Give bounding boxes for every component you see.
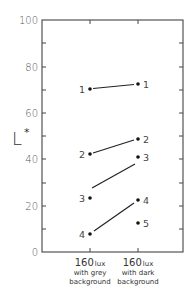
y-axis-ticks	[42, 20, 183, 252]
x-grey-line2: with grey	[74, 269, 107, 277]
y-tick-0: 0	[32, 247, 38, 258]
point-4-grey	[88, 232, 92, 236]
series-points	[88, 82, 140, 236]
x-grey-line3: background	[69, 278, 110, 286]
label-5-dark: 5	[143, 218, 149, 229]
y-tick-20: 20	[25, 201, 38, 212]
y-tick-60: 60	[25, 108, 38, 119]
point-1-dark	[136, 82, 140, 86]
point-1-grey	[88, 87, 92, 91]
point-3-dark	[136, 155, 140, 159]
y-axis-title-star: *	[24, 126, 30, 139]
x-category-grey: 160lux with grey background	[69, 257, 110, 286]
chart: 0 20 40 60 80 100 L * 1 1 2 2 3 3 4 4 5	[0, 0, 196, 298]
point-2-dark	[136, 137, 140, 141]
label-1-dark: 1	[143, 79, 149, 90]
y-tick-40: 40	[25, 154, 38, 165]
point-3-grey	[88, 196, 92, 200]
label-2-grey: 2	[79, 149, 85, 160]
series-1-line	[93, 85, 134, 89]
x-category-dark: 160lux with dark background	[117, 257, 158, 286]
x-dark-line3: background	[117, 278, 158, 286]
point-2-grey	[88, 152, 92, 156]
series-4-line	[94, 203, 134, 231]
label-1-grey: 1	[79, 84, 85, 95]
x-dark-line1: 160lux	[123, 257, 154, 268]
point-5-dark	[136, 221, 140, 225]
label-3-grey: 3	[79, 193, 85, 204]
y-tick-100: 100	[19, 15, 38, 26]
y-axis-title: L	[12, 128, 22, 149]
label-4-dark: 4	[143, 195, 149, 206]
series-2-line	[93, 140, 134, 153]
point-4-dark	[136, 198, 140, 202]
y-tick-80: 80	[25, 62, 38, 73]
series-lines	[92, 85, 135, 232]
x-grey-line1: 160lux	[75, 257, 106, 268]
label-4-grey: 4	[79, 229, 85, 240]
x-dark-line2: with dark	[122, 269, 156, 277]
plot-frame	[42, 20, 183, 252]
series-3-line	[92, 164, 135, 188]
point-labels: 1 1 2 2 3 3 4 4 5	[79, 79, 149, 240]
label-3-dark: 3	[143, 152, 149, 163]
label-2-dark: 2	[143, 134, 149, 145]
